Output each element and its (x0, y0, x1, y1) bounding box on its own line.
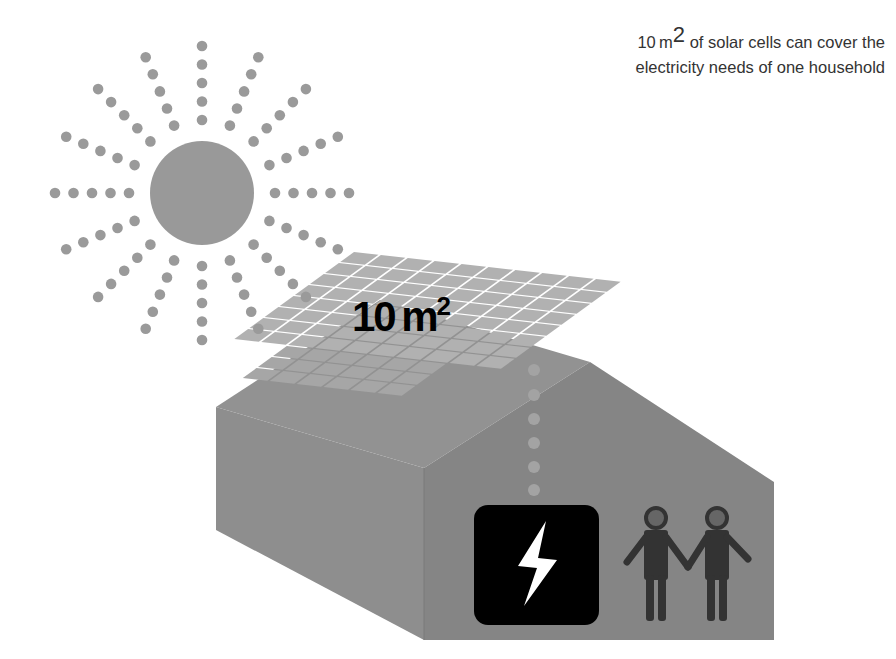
panel-area-label: 10 m2 (352, 296, 449, 338)
sun-disc (150, 141, 254, 245)
panel-area-value: 10 m (352, 293, 436, 340)
sun-icon (50, 41, 355, 346)
lightning-bolt-icon (474, 505, 599, 625)
panel-area-superscript: 2 (436, 291, 448, 321)
